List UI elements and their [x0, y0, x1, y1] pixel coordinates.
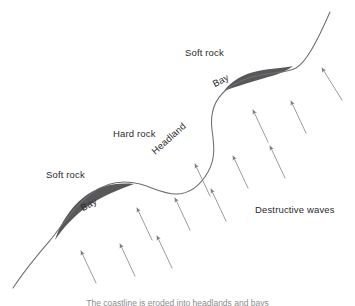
coastline-illustration: [0, 0, 355, 306]
label-soft-rock-lower: Soft rock: [46, 170, 85, 180]
wave-arrow: [81, 251, 96, 283]
label-destructive-waves: Destructive waves: [255, 205, 335, 215]
wave-arrow: [195, 164, 210, 196]
wave-arrow: [137, 208, 152, 240]
label-soft-rock-upper: Soft rock: [185, 48, 224, 58]
coastal-erosion-diagram: Soft rock Bay Soft rock Bay Hard rock He…: [0, 0, 355, 306]
figure-caption: The coastline is eroded into headlands a…: [0, 298, 355, 306]
wave-arrow: [157, 236, 172, 268]
wave-arrow: [211, 189, 226, 221]
soft-rock-wedge-upper: [224, 66, 293, 91]
wave-arrow: [233, 156, 248, 188]
wave-arrow: [270, 146, 285, 178]
wave-arrow: [175, 198, 190, 230]
wave-arrow: [120, 244, 135, 276]
destructive-wave-arrows: [81, 68, 342, 283]
wave-arrow: [322, 68, 342, 100]
label-hard-rock: Hard rock: [113, 129, 156, 139]
wave-arrow: [253, 110, 268, 142]
wave-arrow: [291, 101, 306, 133]
coastline-path: [13, 12, 330, 288]
soft-rock-wedge-lower: [55, 184, 134, 240]
